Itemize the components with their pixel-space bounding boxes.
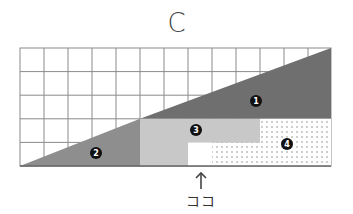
svg-text:4: 4 [284,140,290,149]
svg-text:1: 1 [253,97,259,106]
gap-cell [188,142,212,166]
area-diagram: 1 2 3 4 [0,0,353,214]
up-arrow-icon [196,173,206,189]
svg-text:3: 3 [193,126,199,135]
svg-text:2: 2 [93,149,99,158]
pointer-label: ココ [183,190,219,210]
